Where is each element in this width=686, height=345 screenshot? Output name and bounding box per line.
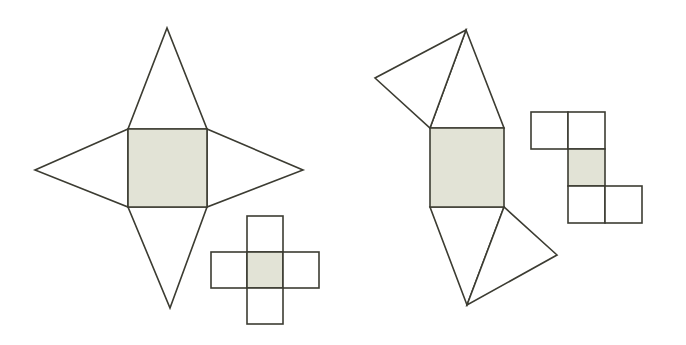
z-pentomino-net-top-right-cell (568, 112, 605, 149)
z-pentomino-net-top-left-cell (531, 112, 568, 149)
cross-pentomino-net-bottom-cell (247, 288, 283, 324)
left-net-shaded-square (128, 129, 207, 207)
geometric-nets-diagram (0, 0, 686, 345)
z-pentomino-net-bottom-left-cell (568, 186, 605, 223)
z-pentomino-net-centre-cell (568, 149, 605, 186)
z-pentomino-net-bottom-right-cell (605, 186, 642, 223)
cross-pentomino-net-centre-cell (247, 252, 283, 288)
right-net-shaded-square (430, 128, 504, 207)
cross-pentomino-net-top-cell (247, 216, 283, 252)
cross-pentomino-net-left-cell (211, 252, 247, 288)
cross-pentomino-net-right-cell (283, 252, 319, 288)
